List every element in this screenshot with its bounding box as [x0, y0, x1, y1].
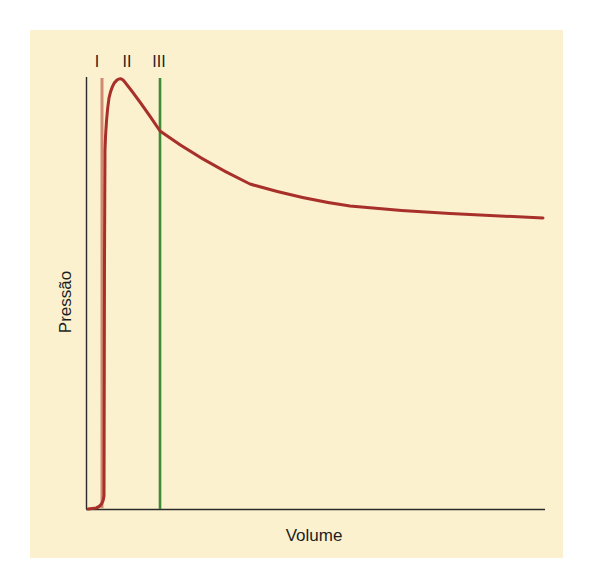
x-axis-label: Volume	[286, 526, 343, 545]
marker-label-ii: II	[123, 53, 132, 70]
y-axis-label: Pressão	[56, 271, 75, 333]
marker-label-iii: III	[152, 53, 165, 70]
pressure-volume-chart: I II III Volume Pressão	[0, 0, 597, 573]
marker-label-i: I	[95, 53, 99, 70]
pressure-volume-curve	[88, 79, 543, 509]
